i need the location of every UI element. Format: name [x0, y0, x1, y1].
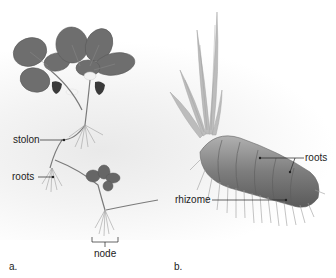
panel-a-leaders — [38, 140, 118, 247]
rhizome-leaf-blades — [170, 12, 222, 138]
daughter-plant-leaves — [86, 165, 120, 191]
panel-letter-b: b. — [174, 262, 182, 272]
panel-letter-a: a. — [9, 262, 17, 272]
label-rhizome: rhizome — [175, 195, 211, 205]
label-roots-a: roots — [12, 172, 34, 182]
illustration — [0, 0, 336, 278]
strawberry-roots — [42, 125, 114, 236]
label-node: node — [94, 249, 116, 259]
label-roots-b: roots — [305, 153, 327, 163]
strawberry-leaves — [9, 24, 136, 95]
label-stolon: stolon — [13, 135, 40, 145]
diagram-canvas: stolon roots node a. roots rhizome b. — [0, 0, 336, 278]
